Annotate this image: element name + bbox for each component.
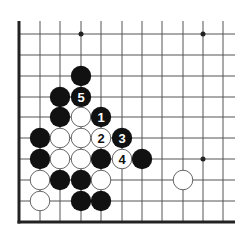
black-stone-icon <box>71 191 91 211</box>
black-stone-icon <box>30 149 50 169</box>
black-stone <box>91 149 111 169</box>
white-stone-icon <box>71 107 91 127</box>
black-stone <box>71 66 91 86</box>
black-stone-icon <box>30 128 50 148</box>
white-stone <box>50 128 70 148</box>
move-number: 2 <box>97 131 104 146</box>
black-stone <box>91 191 111 211</box>
move-number: 3 <box>118 131 125 146</box>
white-stone-2: 2 <box>91 128 111 148</box>
white-stone <box>30 170 50 190</box>
white-stone-icon <box>30 170 50 190</box>
black-stone <box>30 149 50 169</box>
black-stone <box>71 170 91 190</box>
white-stone <box>71 107 91 127</box>
black-stone-icon <box>91 149 111 169</box>
black-stone-icon <box>50 87 70 107</box>
black-stone-icon <box>132 149 152 169</box>
black-stone-icon <box>91 191 111 211</box>
white-stone <box>71 149 91 169</box>
black-stone-5: 5 <box>71 87 91 107</box>
black-stone <box>50 170 70 190</box>
move-number: 5 <box>77 90 84 105</box>
black-stone <box>132 149 152 169</box>
black-stone-icon <box>71 66 91 86</box>
star-point <box>201 32 206 37</box>
white-stone-icon <box>71 128 91 148</box>
white-stone-icon <box>173 170 193 190</box>
white-stone-icon <box>71 149 91 169</box>
move-number: 4 <box>118 152 126 167</box>
black-stone <box>50 107 70 127</box>
black-stone-icon <box>50 107 70 127</box>
black-stone-icon <box>50 170 70 190</box>
star-point <box>201 157 206 162</box>
go-board-diagram: 51234 <box>0 0 252 240</box>
white-stone-4: 4 <box>112 149 132 169</box>
white-stone <box>71 128 91 148</box>
move-number: 1 <box>97 110 104 125</box>
white-stone <box>30 191 50 211</box>
black-stone <box>50 87 70 107</box>
black-stone-1: 1 <box>91 107 111 127</box>
white-stone <box>50 149 70 169</box>
white-stone-icon <box>91 170 111 190</box>
white-stone-icon <box>30 191 50 211</box>
board-grid <box>18 21 236 224</box>
black-stone <box>30 128 50 148</box>
white-stone-icon <box>50 149 70 169</box>
white-stone <box>173 170 193 190</box>
black-stone-icon <box>71 170 91 190</box>
black-stone <box>71 191 91 211</box>
white-stone <box>91 170 111 190</box>
white-stone-icon <box>50 128 70 148</box>
black-stone-3: 3 <box>112 128 132 148</box>
star-point <box>79 32 84 37</box>
